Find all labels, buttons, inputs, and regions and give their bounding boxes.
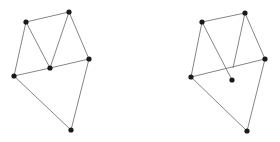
- graph-node-e: [11, 73, 16, 78]
- graph-node-a: [23, 19, 28, 24]
- graph-diagram: [0, 0, 280, 142]
- graph-edge-7: [247, 59, 265, 131]
- graph-edge-b-c: [69, 12, 89, 59]
- graph-edge-a-b: [26, 12, 69, 22]
- graph-edge-e-f: [14, 76, 71, 130]
- graph-node-c: [86, 56, 91, 61]
- graph-edge-e-d: [14, 68, 50, 76]
- graph-edge-0: [202, 13, 245, 22]
- graph-edge-a-d: [26, 22, 50, 68]
- graph-edge-5: [191, 59, 265, 77]
- graph-edge-b-d: [50, 12, 69, 68]
- graph-node-f: [68, 127, 73, 132]
- graph-node-a: [199, 19, 204, 24]
- graph-edge-6: [191, 77, 247, 131]
- graph-edge-2: [191, 22, 202, 77]
- graph-edge-4: [233, 13, 245, 68]
- graph-edge-c-f: [71, 59, 89, 130]
- right-graph: [188, 10, 267, 133]
- graph-node-d: [229, 77, 234, 82]
- graph-edge-3: [245, 13, 265, 59]
- graph-node-c: [262, 56, 267, 61]
- graph-node-f: [244, 128, 249, 133]
- graph-node-b: [242, 10, 247, 15]
- graph-edge-1: [202, 22, 232, 80]
- graph-node-b: [66, 9, 71, 14]
- graph-node-d: [47, 65, 52, 70]
- graph-edge-a-e: [14, 22, 26, 76]
- graph-node-e: [188, 74, 193, 79]
- graph-edge-d-c: [50, 59, 89, 68]
- left-graph: [11, 9, 91, 132]
